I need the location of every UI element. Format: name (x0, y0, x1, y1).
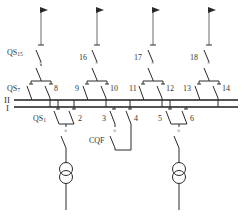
label-10: 10 (110, 84, 118, 93)
disconnector-11[interactable] (139, 86, 144, 100)
source-2-transformer: × 5 6 (158, 100, 194, 210)
label-CQF: CQF (89, 136, 105, 145)
label-17: 17 (134, 53, 142, 62)
double-busbar-diagram: II I × QS15 QS7 8 × 16 (0, 0, 246, 218)
disconnector-10[interactable] (101, 86, 106, 98)
breaker-x-mark: × (64, 128, 67, 134)
feeder-3: × 17 11 12 (129, 10, 174, 107)
label-2: 2 (78, 114, 82, 123)
breaker-x-mark: × (151, 60, 154, 66)
busbar-I-label: I (6, 103, 9, 113)
label-QS15: QS15 (7, 48, 23, 57)
disconnector-4[interactable] (126, 111, 131, 124)
breaker-x-mark: × (113, 128, 116, 134)
label-12: 12 (166, 84, 174, 93)
feeder-4: × 18 13 14 (183, 10, 230, 107)
disconnector-5[interactable] (166, 111, 171, 124)
breaker-2[interactable] (92, 68, 97, 80)
label-QS1: QS1 (33, 114, 46, 123)
breaker-T1[interactable] (61, 136, 66, 148)
feeder-2: × 16 9 10 (75, 10, 118, 107)
disconnector-8[interactable] (45, 86, 50, 98)
disconnector-3[interactable] (110, 111, 115, 124)
breaker-CQF[interactable] (110, 136, 115, 148)
label-5: 5 (158, 114, 162, 123)
breaker-4[interactable] (204, 68, 209, 80)
label-18: 18 (190, 53, 198, 62)
label-QS7: QS7 (7, 84, 20, 93)
disconnector-12[interactable] (157, 86, 162, 98)
label-4: 4 (134, 114, 138, 123)
breaker-x-mark: × (207, 60, 210, 66)
label-9: 9 (75, 84, 79, 93)
disconnector-QS1[interactable] (54, 111, 59, 124)
breaker-x-mark: × (177, 128, 180, 134)
breaker-T2[interactable] (174, 136, 179, 148)
feeder-1: × QS15 QS7 8 (7, 10, 58, 107)
label-6: 6 (190, 114, 194, 123)
disconnector-13[interactable] (195, 86, 200, 100)
disconnector-QS7[interactable] (27, 86, 32, 100)
busbar-I: I (6, 103, 238, 113)
busbar-II: II (4, 95, 238, 105)
label-3: 3 (102, 114, 106, 123)
label-11: 11 (129, 84, 137, 93)
source-1-transformer: × QS1 2 (33, 100, 82, 210)
breaker-1[interactable] (36, 68, 41, 80)
label-14: 14 (222, 84, 230, 93)
label-16: 16 (79, 53, 87, 62)
label-13: 13 (183, 84, 191, 93)
label-8: 8 (54, 84, 58, 93)
breaker-x-mark: × (95, 60, 98, 66)
disconnector-2[interactable] (69, 111, 74, 124)
transformer-icon (173, 163, 186, 176)
disconnector-9[interactable] (83, 86, 88, 100)
breaker-3[interactable] (148, 68, 153, 80)
disconnector-6[interactable] (182, 111, 187, 124)
disconnector-14[interactable] (213, 86, 218, 98)
transformer-icon (60, 163, 73, 176)
